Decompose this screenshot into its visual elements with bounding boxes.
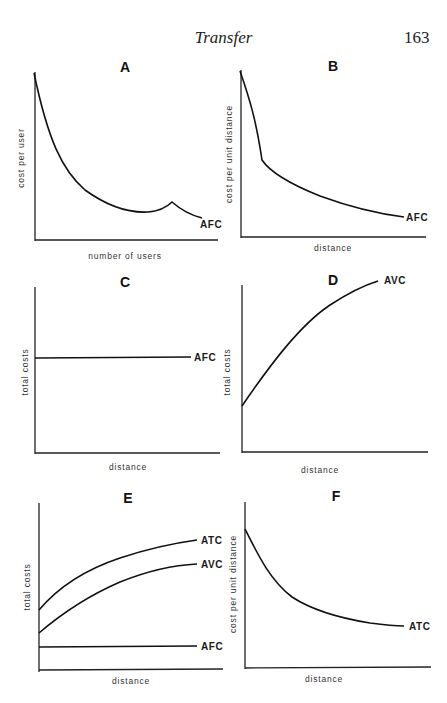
panel-b-ylabel: cost per unit distance (224, 105, 234, 203)
panel-e-x-axis (39, 669, 223, 670)
panel-e-avc-label: AVC (201, 559, 223, 570)
panel-d-xlabel: distance (301, 465, 339, 475)
panel-e-afc-label: AFC (201, 641, 223, 652)
panel-b: B AFC distance cost per unit distance (224, 58, 428, 253)
panel-e-ylabel: total costs (22, 563, 32, 610)
panel-d-ylabel: total costs (222, 348, 232, 395)
panel-c-xlabel: distance (109, 462, 147, 472)
panel-e-avc-curve (39, 564, 197, 633)
panel-e-title: E (123, 490, 132, 506)
panel-a-title: A (120, 59, 130, 75)
panel-c-afc-label: AFC (194, 352, 216, 363)
panel-d-avc-label: AVC (384, 275, 406, 286)
panel-a: A AFC number of users cost per user (16, 59, 222, 261)
panel-e-atc-label: ATC (201, 535, 223, 546)
panel-f-ylabel: cost per unit distance (228, 535, 238, 633)
panel-a-ylabel: cost per user (16, 128, 26, 188)
panel-f: F ATC distance cost per unit distance (228, 488, 431, 684)
panel-c-ylabel: total costs (20, 348, 30, 395)
panel-e-afc-line (39, 646, 197, 647)
panel-a-afc-label: AFC (200, 219, 222, 230)
panel-e-xlabel: distance (112, 676, 150, 686)
panel-e: E ATC AVC AFC distance total costs (22, 490, 223, 686)
panel-a-afc-curve (34, 73, 202, 218)
panel-f-atc-label: ATC (409, 621, 431, 632)
panel-b-title: B (328, 58, 338, 74)
panel-a-xlabel: number of users (88, 251, 161, 261)
figure-cost-curves: A AFC number of users cost per user B AF… (0, 0, 447, 703)
panel-d-avc-curve (242, 281, 378, 406)
panel-b-afc-curve (240, 71, 404, 217)
panel-b-afc-label: AFC (406, 212, 428, 223)
panel-c-title: C (120, 274, 130, 290)
panel-f-x-axis (245, 667, 431, 668)
panel-d-title: D (328, 272, 338, 288)
panel-f-atc-curve (245, 529, 404, 626)
panel-c-afc-line (35, 357, 191, 358)
panel-d: D AVC distance total costs (222, 272, 428, 475)
panel-c: C AFC distance total costs (20, 274, 220, 472)
panel-f-title: F (332, 488, 341, 504)
panel-f-xlabel: distance (305, 674, 343, 684)
panel-e-atc-curve (39, 540, 197, 610)
panel-b-xlabel: distance (314, 243, 352, 253)
